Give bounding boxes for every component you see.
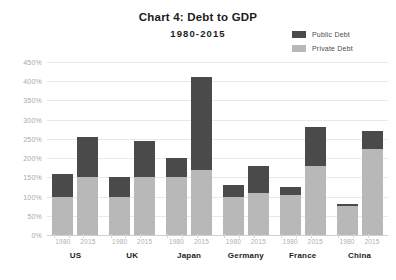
- x-axis-tick-mark: [338, 234, 339, 238]
- plot-area: 450%400%350%300%250%200%150%100%50%0%: [47, 62, 388, 235]
- y-axis-tick-label: 450%: [23, 59, 42, 66]
- stacked-bar[interactable]: [223, 62, 244, 235]
- x-axis-country-label: US: [47, 251, 104, 260]
- x-axis-group: 19802015Japan: [161, 238, 218, 272]
- chart-title: Chart 4: Debt to GDP: [0, 10, 396, 24]
- x-axis-tick-mark: [125, 234, 126, 238]
- x-axis-tick-mark: [254, 234, 255, 238]
- chart-legend: Public DebtPrivate Debt: [292, 28, 388, 56]
- x-axis-year-label: 2015: [362, 238, 383, 245]
- x-axis-tick-mark: [311, 234, 312, 238]
- bar-segment-private-debt[interactable]: [109, 197, 130, 235]
- x-axis-year-label: 2015: [248, 238, 269, 245]
- stacked-bar[interactable]: [166, 62, 187, 235]
- x-axis-year-label: 1980: [280, 238, 301, 245]
- bar-segment-private-debt[interactable]: [248, 193, 269, 235]
- stacked-bar[interactable]: [109, 62, 130, 235]
- x-axis-tick-mark: [83, 234, 84, 238]
- stacked-bar[interactable]: [77, 62, 98, 235]
- bar-segment-public-debt[interactable]: [52, 174, 73, 197]
- x-axis-year-labels: 19802015: [161, 238, 218, 245]
- bar-segment-public-debt[interactable]: [191, 77, 212, 169]
- x-axis-year-label: 2015: [191, 238, 212, 245]
- stacked-bar[interactable]: [248, 62, 269, 235]
- bar-segment-public-debt[interactable]: [77, 137, 98, 177]
- bar-segment-public-debt[interactable]: [109, 177, 130, 196]
- bar-segment-private-debt[interactable]: [223, 197, 244, 235]
- stacked-bar[interactable]: [52, 62, 73, 235]
- x-axis-country-label: France: [274, 251, 331, 260]
- x-axis-year-label: 2015: [305, 238, 326, 245]
- bar-segment-public-debt[interactable]: [362, 131, 383, 148]
- legend-item: Public Debt: [292, 28, 388, 40]
- x-axis-tick-mark: [239, 234, 240, 238]
- chart-container: Chart 4: Debt to GDP 1980-2015 Public De…: [0, 0, 396, 280]
- x-axis-tick-mark: [167, 234, 168, 238]
- legend-swatch-icon: [292, 45, 306, 52]
- bar-segment-private-debt[interactable]: [134, 177, 155, 235]
- y-axis-tick-label: 200%: [23, 155, 42, 162]
- x-axis-year-labels: 19802015: [104, 238, 161, 245]
- bar-group: [274, 62, 331, 235]
- bar-group: [47, 62, 104, 235]
- y-axis-tick-label: 400%: [23, 78, 42, 85]
- x-axis-group: 19802015France: [274, 238, 331, 272]
- legend-label: Private Debt: [312, 45, 353, 52]
- stacked-bar[interactable]: [191, 62, 212, 235]
- y-axis-tick-label: 100%: [23, 193, 42, 200]
- stacked-bar[interactable]: [337, 62, 358, 235]
- stacked-bar[interactable]: [280, 62, 301, 235]
- bar-segment-private-debt[interactable]: [166, 177, 187, 235]
- stacked-bar[interactable]: [134, 62, 155, 235]
- stacked-bar[interactable]: [305, 62, 326, 235]
- bar-segment-private-debt[interactable]: [191, 170, 212, 235]
- x-axis-group: 19802015Germany: [217, 238, 274, 272]
- bar-segment-public-debt[interactable]: [134, 141, 155, 178]
- x-axis-tick-mark: [353, 234, 354, 238]
- bar-groups: [47, 62, 388, 235]
- x-axis-group: 19802015US: [47, 238, 104, 272]
- bar-group: [331, 62, 388, 235]
- x-axis-year-label: 1980: [337, 238, 358, 245]
- bar-segment-public-debt[interactable]: [166, 158, 187, 177]
- x-axis-year-label: 2015: [134, 238, 155, 245]
- bar-segment-private-debt[interactable]: [337, 206, 358, 235]
- y-axis-tick-label: 0%: [31, 232, 42, 239]
- x-axis-country-label: UK: [104, 251, 161, 260]
- x-axis-country-label: China: [331, 251, 388, 260]
- bar-segment-private-debt[interactable]: [305, 166, 326, 235]
- bar-segment-private-debt[interactable]: [280, 195, 301, 235]
- axis-baseline: [47, 235, 388, 236]
- legend-label: Public Debt: [312, 31, 350, 38]
- x-axis-tick-mark: [224, 234, 225, 238]
- x-axis-tick-mark: [197, 234, 198, 238]
- x-axis-year-labels: 19802015: [331, 238, 388, 245]
- legend-swatch-icon: [292, 31, 306, 38]
- x-axis-tick-mark: [140, 234, 141, 238]
- x-axis-group: 19802015China: [331, 238, 388, 272]
- x-axis-year-label: 2015: [77, 238, 98, 245]
- x-axis-group: 19802015UK: [104, 238, 161, 272]
- x-axis-tick-mark: [368, 234, 369, 238]
- bar-group: [104, 62, 161, 235]
- stacked-bar[interactable]: [362, 62, 383, 235]
- x-axis-tick-mark: [111, 234, 112, 238]
- y-axis-tick-label: 350%: [23, 97, 42, 104]
- y-axis-tick-label: 50%: [27, 212, 42, 219]
- x-axis-tick-mark: [54, 234, 55, 238]
- x-axis-year-labels: 19802015: [274, 238, 331, 245]
- x-axis-tick-mark: [182, 234, 183, 238]
- bar-segment-public-debt[interactable]: [223, 185, 244, 197]
- x-axis-tick-mark: [69, 234, 70, 238]
- x-axis-year-label: 1980: [109, 238, 130, 245]
- bar-segment-public-debt[interactable]: [305, 127, 326, 165]
- bar-segment-public-debt[interactable]: [248, 166, 269, 193]
- bar-segment-private-debt[interactable]: [362, 149, 383, 236]
- y-axis-tick-label: 250%: [23, 135, 42, 142]
- x-axis-country-label: Germany: [217, 251, 274, 260]
- bar-segment-private-debt[interactable]: [77, 177, 98, 235]
- bar-segment-public-debt[interactable]: [280, 187, 301, 195]
- x-axis-tick-mark: [281, 234, 282, 238]
- x-axis-year-labels: 19802015: [217, 238, 274, 245]
- bar-segment-private-debt[interactable]: [52, 197, 73, 235]
